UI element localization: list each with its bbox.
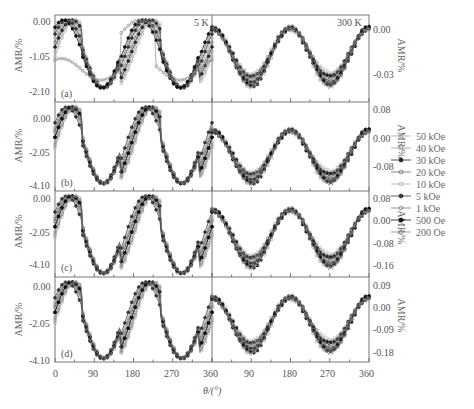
ytick-d-0: 0.00 <box>33 281 51 292</box>
legend-label: 40 kOe <box>416 143 445 154</box>
legend-item: 1 kOe <box>390 202 445 214</box>
plot-frames <box>55 15 369 362</box>
ytick-r-a-1: -0.03 <box>373 69 394 80</box>
legend-marker-icon <box>390 132 412 140</box>
ytick-d-2: -4.10 <box>29 355 50 366</box>
xtick-r-180: 180 <box>282 368 297 379</box>
ytick-r-d-0: 0.09 <box>373 280 391 291</box>
xtick-r-360: 360 <box>359 368 374 379</box>
legend-marker-icon <box>390 168 412 176</box>
legend-marker-icon <box>390 192 412 200</box>
legend-label: 1 kOe <box>416 203 440 214</box>
ytick-a-0: 0.00 <box>33 16 51 27</box>
legend-label: 50 kOe <box>416 131 445 142</box>
ytick-b-2: -4.10 <box>29 180 50 191</box>
legend-label: 500 Oe <box>416 215 445 226</box>
legend-item: 10 kOe <box>390 178 445 190</box>
legend-label: 10 kOe <box>416 179 445 190</box>
ytick-c-1: -2.05 <box>29 227 50 238</box>
x-axis-label: θ/(°) <box>203 385 221 396</box>
legend-label: 20 kOe <box>416 167 445 178</box>
xtick-360: 360 <box>203 368 218 379</box>
ytick-c-2: -4.10 <box>29 259 50 270</box>
xtick-r-270: 270 <box>320 368 335 379</box>
ytick-c-0: 0.00 <box>33 193 51 204</box>
legend-marker-icon <box>390 144 412 152</box>
panel-label-a: (a) <box>61 88 72 99</box>
legend-label: 30 kOe <box>416 155 445 166</box>
ytick-r-a-0: 0.00 <box>373 24 391 35</box>
ytick-r-c-2: -0.08 <box>373 238 394 249</box>
ylabel-right-d: AMR/% <box>396 299 407 333</box>
xtick-0: 0 <box>53 368 58 379</box>
legend-label: 200 Oe <box>416 227 445 238</box>
xtick-180: 180 <box>125 368 140 379</box>
ytick-r-c-3: -0.16 <box>373 260 394 271</box>
ylabel-left-b: AMR/% <box>13 129 24 163</box>
legend-item: 500 Oe <box>390 214 445 226</box>
ytick-r-d-1: 0.00 <box>373 302 391 313</box>
xtick-r-90: 90 <box>244 368 254 379</box>
ylabel-right-a: AMR/% <box>396 39 407 73</box>
temp-label-5k: 5 K <box>194 17 209 28</box>
ylabel-left-a: AMR/% <box>13 39 24 73</box>
ytick-r-d-2: -0.09 <box>373 324 394 335</box>
ylabel-left-d: AMR/% <box>13 303 24 337</box>
legend-item: 40 kOe <box>390 142 445 154</box>
ytick-r-b-1: 0.00 <box>373 133 391 144</box>
ytick-r-d-3: -0.18 <box>373 347 394 358</box>
panel-label-b: (b) <box>61 177 73 188</box>
legend-marker-icon <box>390 204 412 212</box>
panel-label-c: (c) <box>61 262 72 273</box>
legend-item: 20 kOe <box>390 166 445 178</box>
ytick-r-c-1: 0.00 <box>373 215 391 226</box>
ytick-r-c-0: 0.08 <box>373 193 391 204</box>
legend-marker-icon <box>390 180 412 188</box>
legend-marker-icon <box>390 216 412 224</box>
xtick-270: 270 <box>164 368 179 379</box>
legend-item: 50 kOe <box>390 130 445 142</box>
legend-item: 30 kOe <box>390 154 445 166</box>
ylabel-left-c: AMR/% <box>13 215 24 249</box>
legend-item: 5 kOe <box>390 190 445 202</box>
ytick-a-2: -2.10 <box>29 86 50 97</box>
legend-marker-icon <box>390 228 412 236</box>
ytick-r-b-0: 0.08 <box>373 104 391 115</box>
legend-marker-icon <box>390 156 412 164</box>
temp-label-300k: 300 K <box>337 17 362 28</box>
legend: 50 kOe40 kOe30 kOe20 kOe10 kOe5 kOe1 kOe… <box>390 130 445 238</box>
legend-item: 200 Oe <box>390 226 445 238</box>
xtick-90: 90 <box>88 368 98 379</box>
ytick-a-1: -1.05 <box>29 51 50 62</box>
legend-label: 5 kOe <box>416 191 440 202</box>
ytick-b-1: -2.05 <box>29 147 50 158</box>
panel-label-d: (d) <box>61 348 73 359</box>
ytick-b-0: 0.00 <box>33 113 51 124</box>
ytick-d-1: -2.05 <box>29 318 50 329</box>
